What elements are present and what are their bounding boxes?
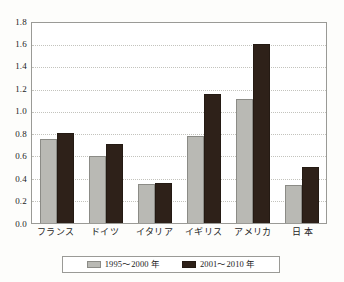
legend-label-2001-2010: 2001～2010 年 [200,260,255,269]
legend: 1995～2000 年 2001～2010 年 [62,256,280,273]
bar-italy-2001-2010 [155,183,172,223]
bar-uk-1995-2000 [187,136,204,223]
y-tick-label: 0.0 [15,220,27,229]
legend-swatch-icon-2001-2010 [182,261,196,268]
plot-area [31,22,327,224]
bar-usa-1995-2000 [236,99,253,223]
legend-label-1995-2000: 1995～2000 年 [105,260,160,269]
y-tick-label: 1.0 [15,107,27,116]
y-tick-label: 0.4 [15,175,27,184]
bar-uk-2001-2010 [204,94,221,223]
bar-germany-2001-2010 [106,144,123,223]
y-axis: 1.8 1.6 1.4 1.2 1.0 0.8 0.6 0.4 0.2 0.0 [0,0,30,282]
y-tick-label: 0.2 [15,197,27,206]
y-tick-label: 0.8 [15,130,27,139]
bar-group-france [35,23,79,223]
bars-container [32,23,326,223]
bar-chart-figure: 1.8 1.6 1.4 1.2 1.0 0.8 0.6 0.4 0.2 0.0 [0,0,344,282]
bar-japan-1995-2000 [285,185,302,223]
x-axis: フランス ドイツ イタリア イギリス アメリカ 日 本 [31,226,327,246]
bar-germany-1995-2000 [89,156,106,223]
bar-group-italy [133,23,177,223]
y-tick-label: 1.4 [15,62,27,71]
y-tick-label: 1.2 [15,85,27,94]
legend-swatch-icon-1995-2000 [87,261,101,268]
bar-group-japan [280,23,324,223]
bar-france-1995-2000 [40,139,57,223]
x-tick-label-italy: イタリア [132,226,176,238]
bar-france-2001-2010 [57,133,74,223]
bar-italy-1995-2000 [138,184,155,223]
bar-group-uk [182,23,226,223]
y-tick-label: 1.6 [15,40,27,49]
x-tick-label-japan: 日 本 [280,226,324,238]
x-tick-label-france: フランス [34,226,78,238]
bar-group-usa [231,23,275,223]
legend-entry-1995-2000: 1995～2000 年 [87,260,160,269]
legend-entry-2001-2010: 2001～2010 年 [182,260,255,269]
bar-usa-2001-2010 [253,44,270,223]
x-tick-label-usa: アメリカ [231,226,275,238]
x-tick-label-germany: ドイツ [83,226,127,238]
y-tick-label: 0.6 [15,152,27,161]
bar-japan-2001-2010 [302,167,319,223]
bar-group-germany [84,23,128,223]
x-tick-label-uk: イギリス [182,226,226,238]
y-tick-label: 1.8 [15,18,27,27]
